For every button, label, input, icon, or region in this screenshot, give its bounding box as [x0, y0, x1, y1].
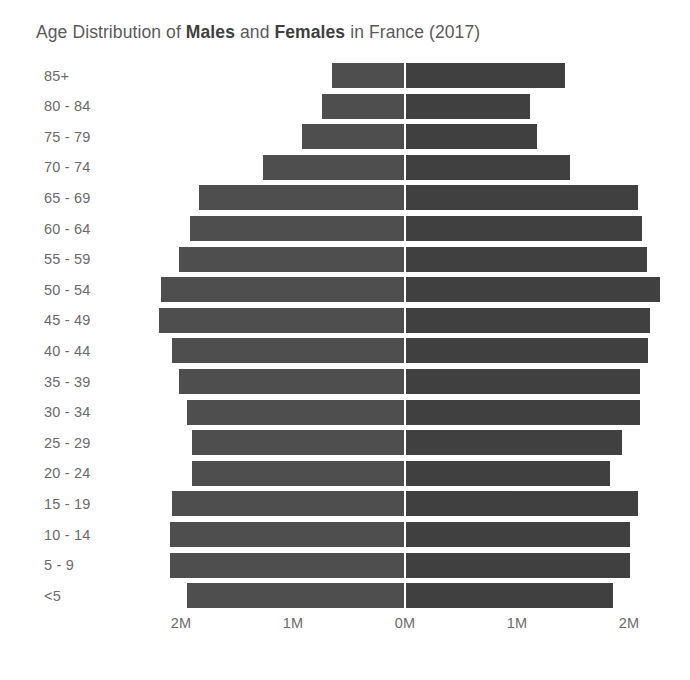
pyramid-row: 55 - 59: [0, 244, 690, 275]
male-bar: [302, 124, 405, 149]
bar-texture: [405, 553, 630, 578]
bar-texture: [405, 522, 630, 547]
male-bar: [332, 63, 405, 88]
title-mid: and: [235, 22, 274, 42]
pyramid-row: 75 - 79: [0, 121, 690, 152]
pyramid-row: 10 - 14: [0, 519, 690, 550]
age-group-label: 40 - 44: [44, 343, 91, 359]
pyramid-row: <5: [0, 580, 690, 611]
female-bar: [405, 155, 570, 180]
female-bar: [405, 461, 610, 486]
male-bar: [199, 185, 405, 210]
title-females-emphasis: Females: [274, 22, 345, 42]
male-bar: [172, 338, 405, 363]
female-bar: [405, 124, 537, 149]
female-bar: [405, 553, 630, 578]
male-bar: [170, 553, 405, 578]
bar-texture: [405, 583, 613, 608]
plot-area: 85+80 - 8475 - 7970 - 7465 - 6960 - 6455…: [0, 60, 690, 610]
female-bar: [405, 277, 660, 302]
pyramid-row: 15 - 19: [0, 488, 690, 519]
bar-texture: [199, 185, 405, 210]
title-suffix: in France (2017): [345, 22, 480, 42]
male-bar: [192, 430, 405, 455]
bar-texture: [405, 369, 640, 394]
x-axis-tick-label: 2M: [619, 615, 640, 631]
female-bar: [405, 338, 648, 363]
male-bar: [190, 216, 405, 241]
male-bar: [192, 461, 405, 486]
bar-texture: [405, 400, 640, 425]
pyramid-row: 30 - 34: [0, 397, 690, 428]
age-group-label: 20 - 24: [44, 465, 91, 481]
bar-texture: [187, 583, 405, 608]
female-bar: [405, 247, 647, 272]
title-males-emphasis: Males: [186, 22, 235, 42]
bar-texture: [405, 63, 565, 88]
pyramid-row: 25 - 29: [0, 427, 690, 458]
male-bar: [322, 94, 405, 119]
bar-texture: [190, 216, 405, 241]
female-bar: [405, 583, 613, 608]
age-group-label: 5 - 9: [44, 557, 74, 573]
male-bar: [179, 247, 405, 272]
age-group-label: 25 - 29: [44, 435, 91, 451]
bar-texture: [405, 491, 638, 516]
pyramid-row: 20 - 24: [0, 458, 690, 489]
bar-texture: [405, 185, 638, 210]
age-group-label: 50 - 54: [44, 282, 91, 298]
male-bar: [172, 491, 405, 516]
male-bar: [179, 369, 405, 394]
pyramid-row: 70 - 74: [0, 152, 690, 183]
female-bar: [405, 369, 640, 394]
pyramid-row: 65 - 69: [0, 182, 690, 213]
x-axis-tick-label: 1M: [507, 615, 528, 631]
bar-texture: [172, 338, 405, 363]
male-bar: [170, 522, 405, 547]
bar-texture: [405, 94, 530, 119]
male-bar: [187, 400, 405, 425]
pyramid-row: 5 - 9: [0, 550, 690, 581]
bar-texture: [322, 94, 405, 119]
x-axis-tick-label: 1M: [283, 615, 304, 631]
pyramid-row: 45 - 49: [0, 305, 690, 336]
bar-texture: [405, 216, 642, 241]
bar-texture: [405, 247, 647, 272]
female-bar: [405, 94, 530, 119]
age-group-label: 45 - 49: [44, 312, 91, 328]
bar-texture: [405, 308, 650, 333]
female-bar: [405, 491, 638, 516]
male-bar: [161, 277, 405, 302]
bar-texture: [263, 155, 405, 180]
age-group-label: 60 - 64: [44, 221, 91, 237]
female-bar: [405, 308, 650, 333]
female-bar: [405, 216, 642, 241]
pyramid-row: 50 - 54: [0, 274, 690, 305]
age-group-label: 10 - 14: [44, 527, 91, 543]
pyramid-row: 85+: [0, 60, 690, 91]
title-prefix: Age Distribution of: [36, 22, 186, 42]
bar-texture: [405, 430, 622, 455]
bar-texture: [179, 369, 405, 394]
bar-texture: [187, 400, 405, 425]
bar-texture: [192, 461, 405, 486]
axis-center-divider: [404, 60, 406, 610]
age-group-label: 30 - 34: [44, 404, 91, 420]
female-bar: [405, 185, 638, 210]
pyramid-row: 60 - 64: [0, 213, 690, 244]
female-bar: [405, 63, 565, 88]
bar-texture: [159, 308, 405, 333]
x-axis-tick-label: 0M: [395, 615, 416, 631]
x-axis-tick-label: 2M: [171, 615, 192, 631]
age-group-label: 65 - 69: [44, 190, 91, 206]
age-group-label: 55 - 59: [44, 251, 91, 267]
age-group-label: 15 - 19: [44, 496, 91, 512]
bar-texture: [405, 461, 610, 486]
bar-texture: [405, 277, 660, 302]
age-group-label: <5: [44, 588, 61, 604]
bar-texture: [170, 522, 405, 547]
bar-texture: [172, 491, 405, 516]
page-title: Age Distribution of Males and Females in…: [36, 22, 480, 43]
male-bar: [159, 308, 405, 333]
x-axis: 2M1M0M1M2M: [0, 615, 690, 645]
